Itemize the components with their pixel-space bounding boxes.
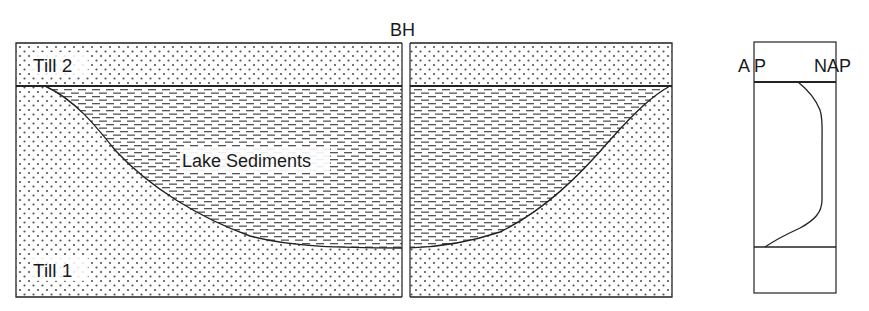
lake-sediments-label: Lake Sediments [182,151,311,171]
till2-label: Till 2 [33,55,72,76]
till1-label: Till 1 [33,260,72,281]
nap-label: NAP [814,56,851,76]
borehole-label: BH [390,20,415,40]
ap-label: A P [738,56,766,76]
pollen-diagram [754,42,836,293]
cross-section-right [400,43,672,297]
geological-diagram: Till 2 Lake Sediments Till 1 BH A P NAP [0,0,869,311]
